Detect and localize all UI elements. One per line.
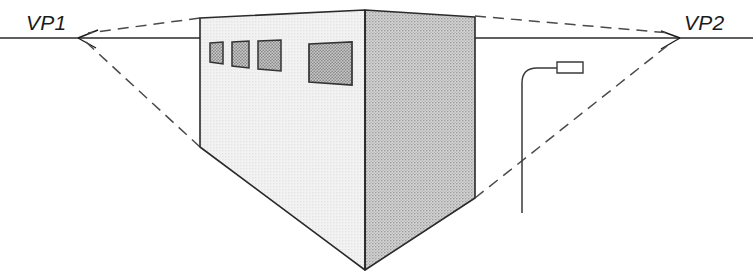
perspective-line-vp1-top [88, 18, 200, 33]
vp2-arrow-icon [661, 31, 680, 49]
diagram-svg [0, 0, 753, 278]
building-right-face [365, 10, 475, 270]
window-4 [309, 42, 352, 85]
lamp-pole-icon [522, 68, 557, 213]
vanishing-point-1-label: VP1 [26, 11, 67, 35]
vanishing-point-2-label: VP2 [684, 11, 725, 35]
window-1 [210, 42, 223, 64]
window-3 [258, 40, 281, 71]
perspective-diagram-canvas: VP1 VP2 [0, 0, 753, 278]
perspective-line-vp1-bottom [86, 42, 200, 147]
window-2 [232, 41, 249, 68]
lamp-head-icon [557, 62, 583, 73]
perspective-line-vp2-top [475, 16, 670, 33]
